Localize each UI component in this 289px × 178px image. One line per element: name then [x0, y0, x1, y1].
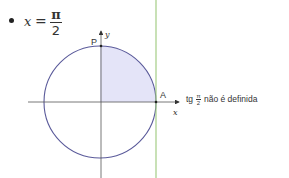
- label-x: x: [173, 108, 178, 117]
- label-p: P: [91, 37, 97, 47]
- label-y: y: [104, 30, 110, 39]
- caption: tg π 2 não é definida: [186, 93, 257, 106]
- caption-frac-num: π: [196, 93, 200, 99]
- caption-frac-den: 2: [197, 100, 200, 106]
- caption-suffix: não é definida: [204, 94, 257, 104]
- caption-fraction: π 2: [196, 93, 200, 106]
- label-a: A: [160, 90, 166, 100]
- point-a: [155, 101, 158, 104]
- caption-prefix: tg: [186, 94, 193, 104]
- unit-circle-diagram: P y A x: [0, 0, 289, 178]
- shaded-sector: [100, 46, 156, 102]
- point-p: [100, 45, 103, 48]
